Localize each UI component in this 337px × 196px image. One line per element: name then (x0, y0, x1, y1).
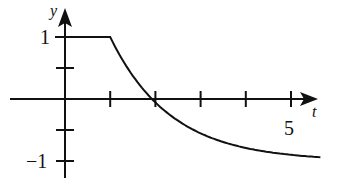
y-tick-label-1: 1 (40, 26, 50, 48)
axes (10, 22, 305, 178)
chart: y t 1 −1 5 (0, 0, 337, 196)
x-tick-label-5: 5 (284, 117, 294, 139)
y-tick-label-minus-1: −1 (26, 150, 47, 172)
x-axis-label: t (312, 103, 317, 120)
data-curve (55, 37, 320, 157)
y-axis-label: y (48, 2, 58, 20)
